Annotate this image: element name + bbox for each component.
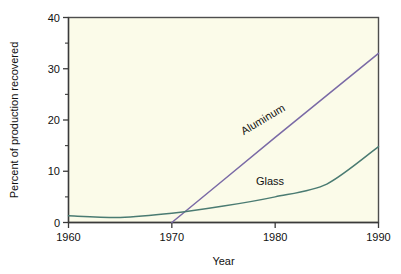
chart-figure: 010203040 1960197019801990 AluminumGlass… xyxy=(0,0,401,274)
plot-area-background xyxy=(69,18,379,223)
y-axis-tick-labels: 010203040 xyxy=(48,12,60,229)
x-tick-label-1980: 1980 xyxy=(263,231,287,243)
y-tick-label-40: 40 xyxy=(48,12,60,24)
x-axis-tick-labels: 1960197019801990 xyxy=(56,231,390,243)
x-axis-major-ticks xyxy=(69,223,379,229)
y-axis-title: Percent of production recovered xyxy=(8,42,20,199)
line-chart: 010203040 1960197019801990 AluminumGlass… xyxy=(0,0,401,274)
y-tick-label-10: 10 xyxy=(48,165,60,177)
y-tick-label-0: 0 xyxy=(54,217,60,229)
x-tick-label-1960: 1960 xyxy=(56,231,80,243)
y-tick-label-20: 20 xyxy=(48,114,60,126)
x-axis-title: Year xyxy=(212,255,235,267)
x-tick-label-1990: 1990 xyxy=(366,231,390,243)
series-label-glass: Glass xyxy=(256,175,285,187)
y-tick-label-30: 30 xyxy=(48,63,60,75)
x-tick-label-1970: 1970 xyxy=(160,231,184,243)
y-axis-major-ticks xyxy=(63,18,69,223)
